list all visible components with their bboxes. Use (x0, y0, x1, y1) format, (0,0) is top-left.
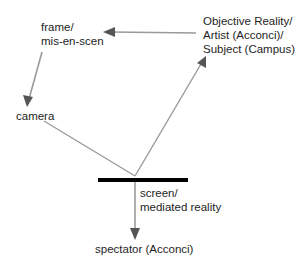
node-camera: camera (16, 109, 54, 123)
frame-label-line1: frame/ (41, 20, 104, 34)
node-spectator: spectator (Acconci) (95, 242, 193, 256)
screen-label-line2: mediated reality (140, 200, 221, 214)
arrow-screen-to-objective (135, 56, 206, 176)
arrow-objective-to-frame (103, 27, 196, 37)
objective-label-line2: Artist (Acconci)/ (203, 28, 295, 42)
screen-label-line1: screen/ (140, 186, 221, 200)
node-screen: screen/ mediated reality (140, 186, 221, 214)
camera-label: camera (16, 110, 54, 122)
arrow-screen-to-spectator (130, 182, 140, 240)
objective-label-line1: Objective Reality/ (203, 14, 295, 28)
arrow-frame-to-camera (23, 52, 42, 107)
node-frame: frame/ mis-en-scen (41, 20, 104, 48)
screen-bar (98, 178, 188, 182)
node-objective: Objective Reality/ Artist (Acconci)/ Sub… (203, 14, 295, 56)
frame-label-line2: mis-en-scen (41, 34, 104, 48)
objective-label-line3: Subject (Campus) (203, 42, 295, 56)
spectator-label: spectator (Acconci) (95, 243, 193, 255)
line-camera-to-screen (44, 121, 135, 176)
